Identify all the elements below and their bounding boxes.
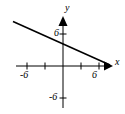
- y-axis-arrowhead-icon: [59, 16, 68, 26]
- y-tick-label-negative-6: -6: [49, 92, 57, 102]
- x-tick-label-negative-6: -6: [20, 70, 28, 80]
- x-tick-label-positive-6: 6: [92, 70, 97, 80]
- plotted-line: [13, 22, 110, 66]
- x-axis-label: x: [115, 57, 119, 67]
- graph-canvas: [0, 0, 125, 114]
- coordinate-plane-figure: y x 6 -6 -6 6: [0, 0, 125, 114]
- y-tick-label-positive-6: 6: [54, 28, 59, 38]
- y-axis-label: y: [65, 3, 69, 13]
